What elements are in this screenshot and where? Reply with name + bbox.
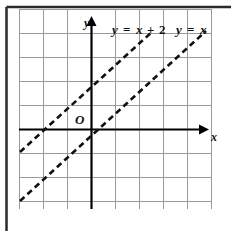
label-y-equals-x-eq: =: [187, 22, 194, 37]
label-y-equals-x-var: x: [199, 22, 207, 37]
label-y-equals-x-plus-2-lhs: y: [110, 22, 118, 37]
label-y-equals-x-plus-2-eq: =: [123, 22, 130, 37]
origin-label: O: [75, 112, 85, 127]
label-y-equals-x: y = x: [174, 22, 207, 37]
x-axis-label: x: [210, 130, 217, 144]
graph-figure: y = x + 2 y = x x y O: [0, 0, 232, 232]
label-y-equals-x-plus-2-var: x: [135, 22, 143, 37]
label-y-equals-x-plus-2-plus: +: [147, 22, 154, 37]
coordinate-plane-svg: y = x + 2 y = x x y O: [0, 0, 232, 232]
y-axis-label: y: [82, 16, 90, 30]
label-y-equals-x-lhs: y: [174, 22, 182, 37]
label-y-equals-x-plus-2-const: 2: [159, 22, 166, 37]
